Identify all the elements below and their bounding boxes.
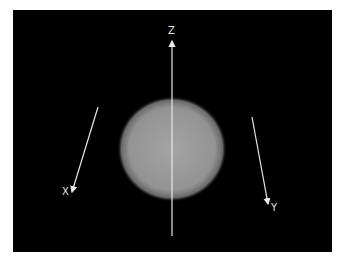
figure-caption bbox=[14, 255, 334, 262]
x-axis-line bbox=[72, 107, 98, 192]
y-axis-line bbox=[252, 117, 268, 204]
z-axis-label: Z bbox=[168, 26, 175, 36]
y-axis-label: Y bbox=[271, 203, 277, 213]
x-axis-label: X bbox=[62, 187, 69, 197]
axes-diagram bbox=[0, 0, 343, 262]
